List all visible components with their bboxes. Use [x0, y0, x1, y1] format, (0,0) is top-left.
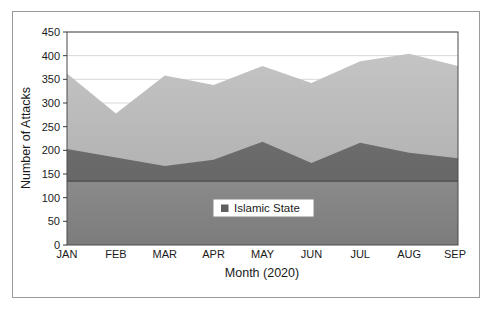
x-axis-tick-labels: JAN FEB MAR APR MAY JUN JUL AUG SEP	[57, 248, 466, 260]
y-axis-title: Number of Attacks	[19, 87, 33, 189]
x-tick-label-may: MAY	[251, 248, 275, 260]
x-tick-label-mar: MAR	[153, 248, 178, 260]
y-axis-ticks	[63, 32, 67, 245]
x-tick-label-apr: APR	[202, 248, 225, 260]
y-tick-label: 400	[42, 50, 60, 62]
x-axis-title: Month (2020)	[225, 266, 299, 280]
x-tick-label-jan: JAN	[57, 248, 78, 260]
y-tick-label: 450	[42, 26, 60, 38]
y-tick-label: 100	[42, 192, 60, 204]
y-tick-label: 350	[42, 73, 60, 85]
y-tick-label: 150	[42, 168, 60, 180]
x-tick-label-jul: JUL	[350, 248, 370, 260]
stacked-area-chart: 450 400 350 300 250 200 150 100 50 0 JAN…	[0, 0, 494, 311]
chart-figure: 450 400 350 300 250 200 150 100 50 0 JAN…	[0, 0, 494, 311]
y-tick-label: 200	[42, 144, 60, 156]
y-tick-label: 250	[42, 121, 60, 133]
chart-legend[interactable]: Islamic State	[213, 199, 314, 217]
x-tick-label-jun: JUN	[301, 248, 322, 260]
x-tick-label-feb: FEB	[105, 248, 126, 260]
y-axis-tick-labels: 450 400 350 300 250 200 150 100 50 0	[42, 26, 60, 251]
y-tick-label: 50	[48, 215, 60, 227]
y-tick-label: 300	[42, 97, 60, 109]
legend-label-islamic-state: Islamic State	[234, 202, 300, 214]
x-tick-label-aug: AUG	[397, 248, 421, 260]
x-tick-label-sep: SEP	[444, 248, 466, 260]
legend-swatch-icon	[221, 205, 229, 213]
